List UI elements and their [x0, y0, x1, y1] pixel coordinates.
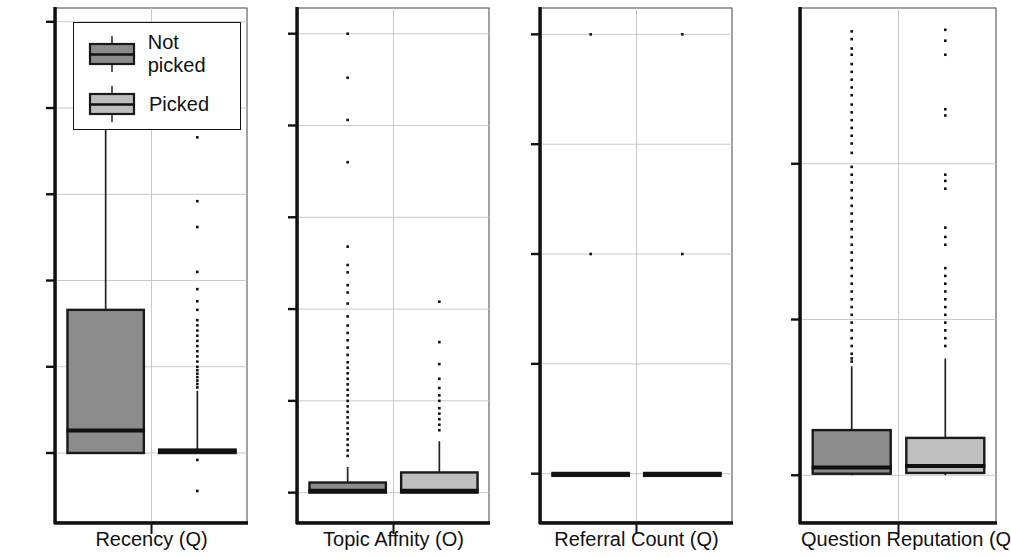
x-axis-label: Question Reputation (Q)	[801, 528, 996, 551]
legend: Not pickedPicked	[73, 22, 241, 130]
legend-box-glyph	[84, 83, 140, 125]
legend-item-not_picked: Not picked	[84, 33, 240, 75]
legend-label: Not picked	[148, 31, 240, 77]
legend-box-glyph	[84, 33, 139, 75]
boxplot-figure: 050100150200250Recency (Q)0510152025Topi…	[0, 0, 1011, 558]
legend-item-picked: Picked	[84, 83, 209, 125]
legend-label: Picked	[149, 93, 209, 116]
